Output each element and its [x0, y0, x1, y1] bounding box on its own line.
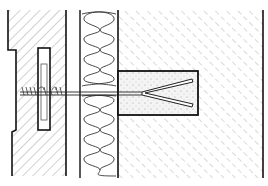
wall-anchor-section-diagram — [0, 0, 268, 186]
anchor-plug — [118, 71, 198, 115]
insulation — [80, 10, 118, 178]
